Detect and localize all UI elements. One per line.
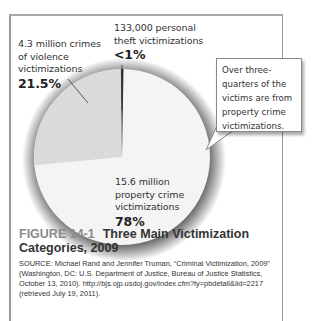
label-theft-pct: <1% xyxy=(114,47,203,63)
figure-caption: FIGURE 14-1Three Main Victimization Cate… xyxy=(19,227,289,299)
label-theft-line2: theft victimizations xyxy=(114,35,203,46)
label-theft: 133,000 personal theft victimizations <1… xyxy=(114,22,203,63)
label-theft-line1: 133,000 personal xyxy=(114,22,196,33)
label-violence: 4.3 million crimes of violence victimiza… xyxy=(18,38,101,92)
figure-number: FIGURE 14-1 xyxy=(19,227,95,241)
callout-text: Over three-quarters of the victims are f… xyxy=(222,65,292,131)
label-property-line3: victimizations xyxy=(115,201,179,212)
label-property-line2: property crime xyxy=(115,189,184,200)
label-property-line1: 15.6 million xyxy=(115,176,170,187)
label-violence-line2: of violence xyxy=(18,51,69,62)
label-violence-pct: 21.5% xyxy=(18,76,101,92)
figure-title: FIGURE 14-1Three Main Victimization Cate… xyxy=(19,227,289,255)
label-property: 15.6 million property crime victimizatio… xyxy=(115,176,184,230)
label-violence-line1: 4.3 million crimes xyxy=(18,38,101,49)
callout-box: Over three-quarters of the victims are f… xyxy=(216,58,302,132)
label-violence-line3: victimizations xyxy=(18,63,82,74)
figure-source: SOURCE: Michael Rand and Jennifer Truman… xyxy=(19,259,289,299)
